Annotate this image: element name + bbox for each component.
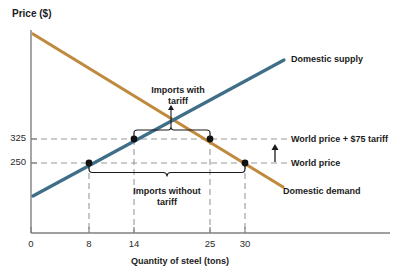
imports-without-tariff-label: Imports without tariff: [132, 186, 202, 207]
x-axis-title: Quantity of steel (tons): [131, 256, 229, 267]
imports-with-tariff-line1: Imports with: [151, 85, 205, 95]
imports-with-tariff-line2: tariff: [168, 96, 188, 106]
bracket-imports-without-tariff: [89, 163, 245, 177]
y-tick-label-250: 250: [2, 156, 26, 167]
y-axis-title: Price ($): [12, 8, 51, 20]
x-tick-label-0: 0: [20, 238, 42, 249]
y-tick-label-325: 325: [2, 132, 26, 143]
domestic-demand-label: Domestic demand: [283, 186, 361, 197]
imports-without-tariff-line2: tariff: [157, 197, 177, 207]
domestic-supply-curve: [33, 60, 284, 196]
imports-without-tariff-line1: Imports without: [133, 186, 201, 196]
imports-with-tariff-label: Imports with tariff: [143, 85, 213, 106]
tariff-supply-demand-chart: Price ($) Quantity of steel (tons) Domes…: [0, 0, 404, 273]
world-price-plus-tariff-label: World price + $75 tariff: [291, 134, 388, 145]
world-price-label: World price: [291, 158, 340, 169]
x-axis-ticks: [31, 227, 245, 233]
x-tick-label-25: 25: [199, 238, 221, 249]
domestic-supply-label: Domestic supply: [291, 54, 363, 65]
x-tick-label-30: 30: [234, 238, 256, 249]
x-tick-label-8: 8: [78, 238, 100, 249]
x-tick-label-14: 14: [123, 238, 145, 249]
y-axis-ticks: [31, 139, 37, 163]
tariff-gap-arrow: [272, 144, 279, 162]
